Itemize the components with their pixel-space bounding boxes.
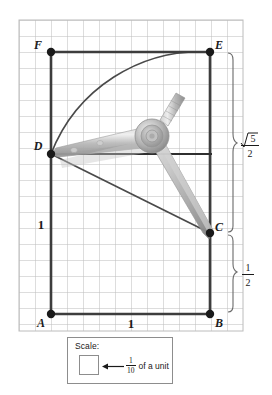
vertex-dot-F (47, 48, 55, 56)
figure-stage: A B C D E F 1 1 5 2 1 2 Scale: (0, 0, 272, 395)
vertex-dot-E (206, 48, 214, 56)
scale-fraction-numerator: 1 (128, 357, 134, 365)
left-arrow-icon (102, 362, 124, 371)
half-numerator: 1 (246, 262, 251, 273)
scale-legend-text: 1 10 of a unit (126, 357, 169, 374)
vertex-dot-C (206, 229, 214, 237)
compass-screw-left-outer (71, 147, 78, 152)
vertex-dot-B (206, 310, 214, 318)
scale-fraction: 1 10 (126, 357, 136, 374)
compass-screw-left-inner (97, 141, 103, 146)
scale-legend-title: Scale: (75, 341, 99, 351)
vertex-dot-D (47, 150, 55, 158)
sqrt-denominator: 2 (248, 148, 253, 159)
point-label-B: B (214, 316, 223, 330)
geometry-figure: A B C D E F 1 1 5 2 1 2 (0, 0, 272, 395)
scale-legend: Scale: 1 10 of a unit (67, 337, 173, 384)
label-one-half: 1 2 (242, 262, 254, 288)
vertex-dot-A (47, 310, 55, 318)
scale-unit-text: of a unit (139, 361, 169, 371)
half-denominator: 2 (246, 277, 251, 288)
point-label-C: C (215, 220, 224, 234)
scale-fraction-denominator: 10 (126, 367, 136, 375)
sqrt-numerator: 5 (251, 133, 256, 144)
unit-square-icon (79, 355, 99, 375)
point-label-D: D (33, 139, 43, 153)
label-sqrt5-over-2: 5 2 (241, 133, 259, 159)
point-label-A: A (36, 316, 45, 330)
point-label-F: F (33, 38, 42, 52)
point-label-E: E (214, 38, 223, 52)
length-label-left: 1 (38, 217, 45, 232)
length-label-bottom: 1 (128, 316, 135, 331)
compass-hub-core (149, 133, 154, 138)
